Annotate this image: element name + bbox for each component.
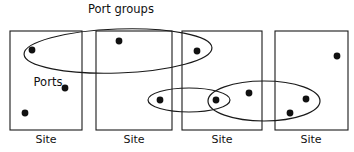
port-4 (116, 38, 123, 45)
site-label-4: Site (300, 133, 321, 146)
port-groups-callout: Port groups (88, 2, 154, 16)
port-10 (303, 96, 310, 103)
site-box-2 (96, 31, 172, 130)
port-group-top (23, 26, 212, 77)
port-8 (246, 90, 253, 97)
port-6 (194, 48, 201, 55)
diagram-canvas: SiteSiteSiteSite Port groupsPorts (0, 0, 354, 152)
annotations-layer: Port groupsPorts (34, 2, 154, 89)
port-group-right (208, 81, 320, 121)
port-11 (287, 110, 294, 117)
site-labels-layer: SiteSiteSiteSite (35, 133, 321, 146)
port-9 (334, 53, 341, 60)
port-1 (29, 47, 36, 54)
site-label-2: Site (123, 133, 144, 146)
site-label-3: Site (211, 133, 232, 146)
ports-layer (22, 38, 341, 117)
port-5 (157, 97, 164, 104)
network-port-group-diagram: SiteSiteSiteSite Port groupsPorts (0, 0, 354, 152)
ports-callout: Ports (34, 75, 63, 89)
port-3 (22, 110, 29, 117)
site-box-4 (275, 31, 348, 130)
site-box-3 (182, 31, 262, 130)
port-2 (62, 85, 69, 92)
site-label-1: Site (35, 133, 56, 146)
port-7 (213, 97, 220, 104)
